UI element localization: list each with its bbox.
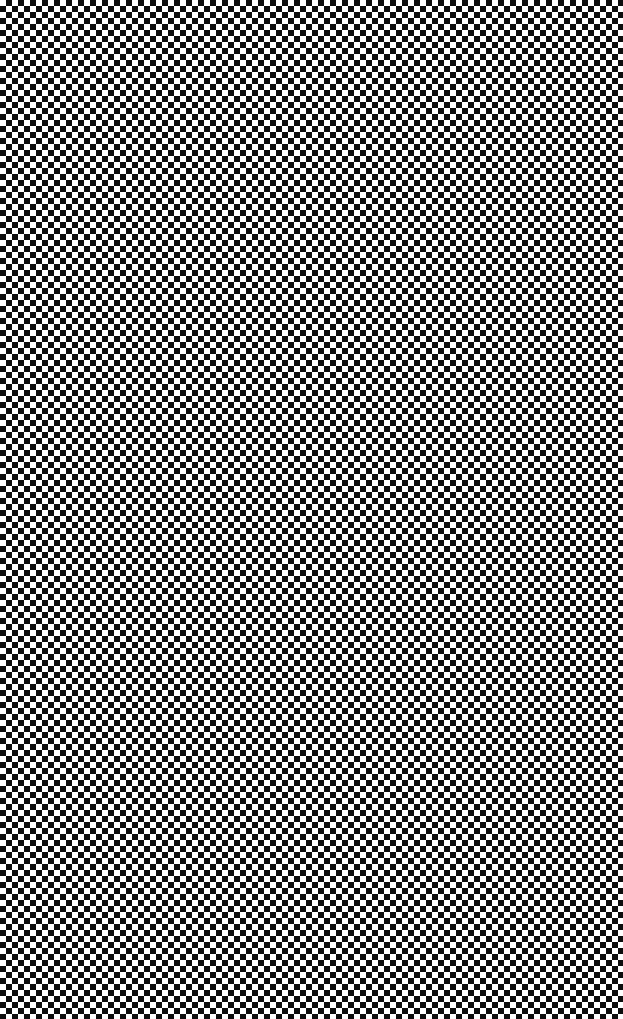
diamond-checkerboard-pattern xyxy=(0,0,623,1019)
pattern-canvas xyxy=(0,0,623,1019)
